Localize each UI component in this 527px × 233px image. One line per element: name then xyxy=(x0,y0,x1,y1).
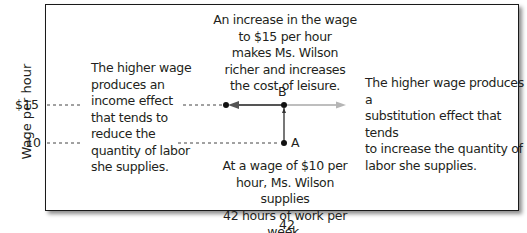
annotation-substitution-effect: The higher wage produces a substitution … xyxy=(365,75,525,174)
annotation-income-effect: The higher wage produces an income effec… xyxy=(91,60,211,176)
point-a-label: A xyxy=(291,135,299,152)
point-b-icon xyxy=(281,102,287,108)
point-a-icon xyxy=(281,140,287,146)
right-arrowhead-icon xyxy=(336,102,346,109)
left-arrowhead-icon xyxy=(228,101,239,109)
up-arrowhead-icon xyxy=(282,108,286,113)
annotation-bottom: At a wage of $10 per hour, Ms. Wilson su… xyxy=(210,158,360,233)
left-point-icon xyxy=(223,102,229,108)
annotation-top: An increase in the wage to $15 per hour … xyxy=(205,12,365,95)
